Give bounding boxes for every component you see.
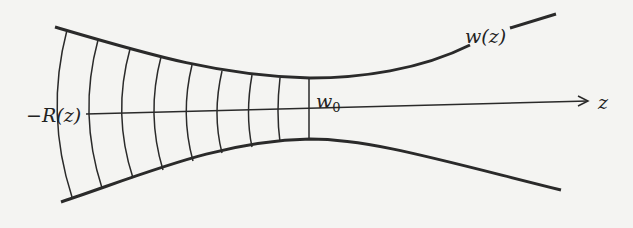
beam-envelope-lower [61, 139, 561, 202]
label-waist: w0 [316, 90, 341, 115]
label-beam-width: w(z) [465, 25, 506, 47]
diagram-canvas: −R(z) w(z) w0 z [0, 0, 633, 228]
gaussian-beam-diagram: −R(z) w(z) w0 z [0, 0, 633, 228]
label-radius-curvature: −R(z) [26, 104, 81, 126]
label-axis-z: z [597, 91, 609, 113]
